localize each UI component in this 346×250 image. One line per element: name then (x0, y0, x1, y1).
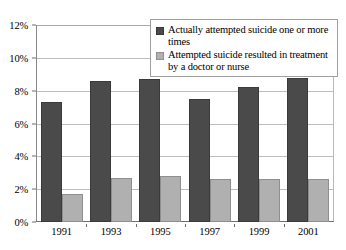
y-axis-tick-mark (32, 90, 36, 91)
chart-legend: Actually attempted suicide one or more t… (150, 19, 338, 77)
bar (238, 87, 259, 222)
y-axis-tick-mark (32, 123, 36, 124)
bar (41, 102, 62, 222)
y-axis-tick-label: 8% (14, 85, 28, 96)
y-axis-tick-label: 0% (14, 217, 28, 228)
bar-group (37, 25, 86, 222)
y-axis-tick-mark (32, 25, 36, 26)
legend-item-label: Actually attempted suicide one or more t… (168, 24, 333, 47)
y-axis-tick-mark (32, 156, 36, 157)
bar-chart: 0%2%4%6%8%10%12% 19911993199519971999200… (0, 0, 346, 250)
bar (308, 179, 329, 222)
bar (160, 176, 181, 222)
y-axis-tick-label: 4% (14, 151, 28, 162)
bar (90, 81, 111, 222)
bar (62, 194, 83, 222)
y-axis-tick-mark (32, 57, 36, 58)
legend-item: Actually attempted suicide one or more t… (156, 24, 333, 47)
bar (287, 78, 308, 222)
bar-group (86, 25, 135, 222)
legend-item: Attempted suicide resulted in treatment … (156, 49, 333, 72)
legend-swatch-icon (156, 27, 164, 35)
bar (189, 99, 210, 222)
x-axis-tick-mark (284, 224, 285, 227)
x-axis-tick-label: 2001 (298, 226, 319, 237)
bar (259, 179, 280, 222)
x-axis-tick-mark (86, 224, 87, 227)
y-axis-tick-mark (32, 189, 36, 190)
bar (210, 179, 231, 222)
x-axis-tick-label: 1997 (199, 226, 220, 237)
y-axis-tick-label: 12% (9, 20, 28, 31)
x-axis-tick-mark (234, 224, 235, 227)
x-axis-tick-label: 1993 (101, 226, 122, 237)
y-axis-tick-label: 10% (9, 52, 28, 63)
x-axis-tick-label: 1999 (249, 226, 270, 237)
bar (139, 79, 160, 222)
x-axis-tick-mark (185, 224, 186, 227)
x-axis-tick-mark (136, 224, 137, 227)
y-axis-tick-mark (32, 222, 36, 223)
bar (111, 178, 132, 222)
x-axis: 199119931995199719992001 (37, 224, 333, 246)
y-axis-tick-label: 2% (14, 184, 28, 195)
y-axis-tick-label: 6% (14, 118, 28, 129)
legend-item-label: Attempted suicide resulted in treatment … (168, 49, 333, 72)
x-axis-tick-label: 1995 (150, 226, 171, 237)
legend-swatch-icon (156, 52, 164, 60)
x-axis-tick-label: 1991 (51, 226, 72, 237)
y-axis: 0%2%4%6%8%10%12% (0, 25, 32, 222)
